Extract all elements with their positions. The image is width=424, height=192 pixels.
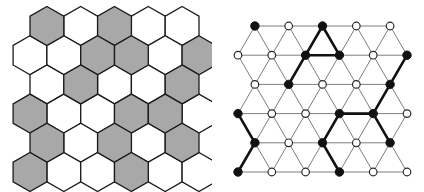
lattice-edge-thin [323, 84, 340, 113]
lattice-edge-bold [238, 143, 255, 172]
lattice-vertex-filled [335, 168, 343, 176]
lattice-edge-thin [238, 55, 255, 84]
lattice-vertex-filled [301, 51, 309, 59]
lattice-vertex-open [285, 22, 293, 30]
lattice-edge-thin [306, 84, 323, 113]
triangular-lattice-svg [212, 0, 424, 192]
lattice-edge-thin [339, 55, 356, 84]
lattice-edge-thin [255, 55, 272, 84]
lattice-edge-bold [373, 114, 390, 143]
lattice-vertex-open [319, 81, 327, 89]
lattice-edge-thin [356, 143, 373, 172]
hexagonal-tiling-svg [0, 0, 212, 192]
lattice-vertex-open [353, 22, 361, 30]
lattice-edge-bold [306, 26, 323, 55]
lattice-edge-thin [356, 26, 373, 55]
lattice-edge-bold [323, 26, 340, 55]
lattice-vertex-open [268, 168, 276, 176]
lattice-edge-thin [339, 26, 356, 55]
triangular-lattice-panel [212, 0, 424, 192]
lattice-vertex-filled [285, 80, 293, 88]
lattice-edge-thin [289, 84, 306, 113]
lattice-edge-thin [238, 26, 255, 55]
lattice-vertex-open [268, 110, 276, 118]
lattice-vertex-filled [369, 109, 377, 117]
lattice-edge-thin [390, 84, 407, 113]
lattice-edge-bold [323, 143, 340, 172]
lattice-edge-thin [390, 143, 407, 172]
lattice-vertex-filled [251, 139, 259, 147]
lattice-vertex-open [302, 110, 310, 118]
lattice-vertex-filled [251, 22, 259, 30]
lattice-edge-thin [373, 26, 390, 55]
lattice-edge-bold [238, 114, 255, 143]
lattice-edge-thin [272, 143, 289, 172]
lattice-vertex-open [353, 139, 361, 147]
lattice-edge-bold [390, 55, 407, 84]
lattice-edge-thin [272, 55, 289, 84]
lattice-edge-thin [255, 114, 272, 143]
lattice-edge-thin [306, 114, 323, 143]
lattice-edge-thin [289, 114, 306, 143]
lattice-edge-thin [306, 55, 323, 84]
lattice-vertex-open [353, 81, 361, 89]
lattice-edge-thin [339, 143, 356, 172]
lattice-edge-thin [356, 84, 373, 113]
lattice-vertex-filled [318, 139, 326, 147]
lattice-vertex-filled [386, 139, 394, 147]
lattice-vertex-open [302, 168, 310, 176]
lattice-vertex-filled [335, 51, 343, 59]
lattice-edge-thin [272, 84, 289, 113]
lattice-vertex-open [386, 22, 394, 30]
lattice-edge-bold [373, 84, 390, 113]
lattice-vertex-open [234, 51, 242, 59]
lattice-vertex-open [369, 168, 377, 176]
lattice-edge-thin [289, 143, 306, 172]
lattice-vertex-open [369, 51, 377, 59]
lattice-edge-thin [339, 114, 356, 143]
lattice-edge-thin [339, 84, 356, 113]
lattice-vertex-filled [234, 168, 242, 176]
lattice-edge-thin [272, 114, 289, 143]
lattice-edge-thin [356, 55, 373, 84]
figure-container [0, 0, 424, 192]
lattice-edge-thin [323, 55, 340, 84]
lattice-vertex-open [403, 110, 411, 118]
lattice-edge-thin [373, 143, 390, 172]
lattice-vertex-filled [318, 22, 326, 30]
lattice-vertex-filled [386, 80, 394, 88]
lattice-edge-thin [356, 114, 373, 143]
lattice-vertex-open [403, 168, 411, 176]
lattice-vertex-filled [335, 109, 343, 117]
lattice-edge-thin [289, 26, 306, 55]
lattice-edge-thin [306, 143, 323, 172]
lattice-edge-thin [255, 84, 272, 113]
lattice-edge-bold [323, 114, 340, 143]
lattice-edge-bold [289, 55, 306, 84]
lattice-edge-thin [255, 143, 272, 172]
lattice-edge-thin [272, 26, 289, 55]
lattice-edge-thin [390, 26, 407, 55]
lattice-vertex-filled [234, 109, 242, 117]
lattice-vertex-open [268, 51, 276, 59]
lattice-vertex-open [251, 81, 259, 89]
hexagonal-tiling-panel [0, 0, 212, 192]
lattice-vertex-filled [403, 51, 411, 59]
lattice-edge-thin [238, 84, 255, 113]
lattice-vertex-open [285, 139, 293, 147]
lattice-edge-thin [373, 55, 390, 84]
lattice-edge-thin [390, 114, 407, 143]
lattice-edge-thin [255, 26, 272, 55]
